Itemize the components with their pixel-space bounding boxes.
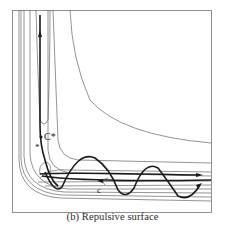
critical-point-label: C*: [44, 132, 56, 142]
lower-label: c: [97, 186, 101, 195]
trajectory-vertical: [40, 15, 58, 186]
arrow-up-icon: [38, 30, 42, 37]
arrowheads: [38, 30, 203, 189]
contour-plot: [0, 0, 225, 229]
arrow-oscillation-end-icon: [196, 183, 202, 189]
contour-lines: [19, 10, 211, 201]
trajectory-oscillating: [45, 157, 200, 198]
arrow-right-icon: [196, 173, 203, 177]
potential-energy-surface-figure: C* * c (b) Repulsive surface: [0, 0, 225, 229]
trajectory-straight: [40, 173, 200, 175]
critical-point-dot: [40, 136, 43, 139]
saddle-marker-label: *: [35, 143, 40, 152]
figure-caption: (b) Repulsive surface: [0, 211, 225, 222]
trajectories: [40, 15, 211, 198]
